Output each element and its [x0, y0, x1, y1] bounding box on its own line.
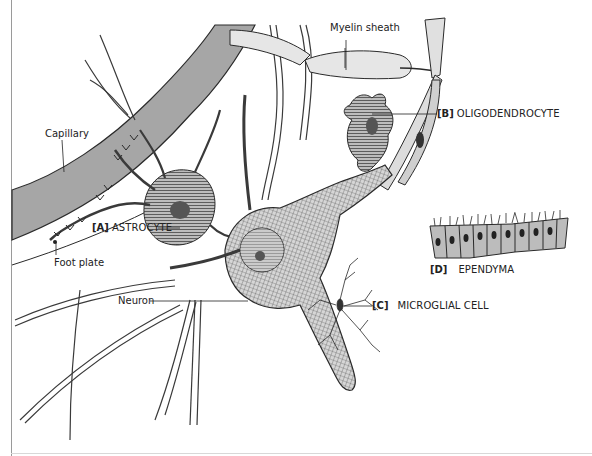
label-microglial-cell: [C]MICROGLIAL CELL	[372, 300, 489, 312]
label-code: [B]	[437, 108, 454, 119]
label-name: MICROGLIAL CELL	[397, 300, 488, 311]
label-name: OLIGODENDROCYTE	[457, 108, 560, 119]
label-ependyma: [D]EPENDYMA	[430, 264, 514, 276]
label-oligodendrocyte: [B]OLIGODENDROCYTE	[437, 108, 560, 120]
label-code: [D]	[430, 264, 447, 275]
label-myelin-sheath: Myelin sheath	[330, 22, 400, 34]
glial-cells-illustration	[0, 0, 592, 456]
label-capillary: Capillary	[45, 128, 89, 140]
label-neuron: Neuron	[118, 295, 154, 307]
ependyma-cells	[430, 210, 568, 258]
oligodendrocyte-cell	[344, 75, 442, 190]
label-name: ASTROCYTE	[112, 222, 172, 233]
label-name: EPENDYMA	[458, 264, 514, 275]
label-foot-plate: Foot plate	[54, 257, 104, 269]
label-code: [C]	[372, 300, 388, 311]
label-astrocyte: [A]ASTROCYTE	[92, 222, 172, 234]
label-code: [A]	[92, 222, 109, 233]
